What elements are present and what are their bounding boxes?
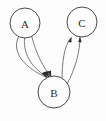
node-c-label: C (78, 17, 85, 29)
node-b[interactable]: B (38, 76, 70, 108)
graph-diagram: A C B (0, 0, 106, 121)
edge-b-to-c-2 (67, 38, 81, 86)
edge-a-to-b-1 (17, 37, 47, 78)
node-a-label: A (21, 18, 29, 30)
graph-canvas: A C B (0, 0, 106, 121)
node-c[interactable]: C (67, 7, 97, 37)
node-b-label: B (50, 87, 57, 99)
edge-group-a-to-b (17, 36, 52, 79)
node-a[interactable]: A (10, 8, 40, 38)
edge-b-to-c-1 (62, 38, 71, 82)
edge-a-to-b-2 (24, 38, 48, 78)
edge-group-b-to-c (62, 36, 82, 85)
arrowhead-b-to-c-1 (68, 37, 72, 43)
